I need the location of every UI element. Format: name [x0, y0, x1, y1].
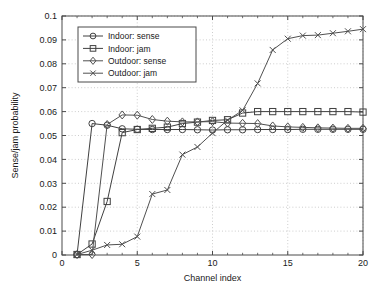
- y-tick-label: 0.03: [39, 179, 57, 189]
- legend-label: Outdoor: sense: [108, 56, 166, 66]
- x-axis-label: Channel index: [184, 273, 242, 283]
- y-tick-label: 0.06: [39, 107, 57, 117]
- y-tick-label: 0.09: [39, 35, 57, 45]
- x-tick-label: 10: [207, 258, 217, 268]
- figure-container: 05101520 00.010.020.030.040.050.060.070.…: [0, 0, 384, 300]
- x-tick-label: 0: [59, 258, 64, 268]
- y-tick-label: 0: [52, 250, 57, 260]
- legend: Indoor: senseIndoor: jamOutdoor: senseOu…: [78, 27, 196, 82]
- y-tick-label: 0.07: [39, 83, 57, 93]
- y-tick-label: 0.02: [39, 202, 57, 212]
- legend-label: Indoor: jam: [108, 44, 151, 54]
- y-axis-label: Sense/jam probability: [10, 92, 20, 179]
- x-tick-label: 20: [358, 258, 368, 268]
- y-tick-label: 0.05: [39, 131, 57, 141]
- x-tick-label: 5: [135, 258, 140, 268]
- x-tick-label: 15: [283, 258, 293, 268]
- legend-label: Indoor: sense: [108, 31, 160, 41]
- y-tick-label: 0.01: [39, 226, 57, 236]
- legend-label: Outdoor: jam: [108, 68, 157, 78]
- y-tick-label: 0.08: [39, 59, 57, 69]
- y-tick-label: 0.04: [39, 155, 57, 165]
- y-tick-label: 0.1: [44, 11, 57, 21]
- chart-svg: 05101520 00.010.020.030.040.050.060.070.…: [0, 0, 384, 300]
